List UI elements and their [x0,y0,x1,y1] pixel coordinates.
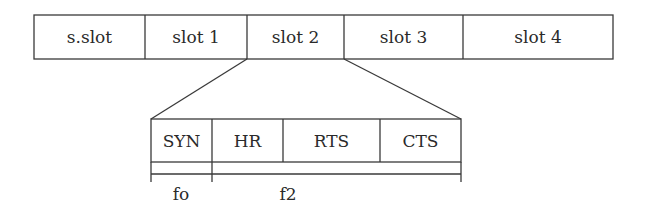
bracket-label-fo: fo [173,184,190,204]
bracket-label-f2: f2 [279,184,296,204]
slot-label-slot-4: slot 4 [514,27,561,47]
slot-label-s-slot: s.slot [67,27,113,47]
top-frame: s.slot slot 1 slot 2 slot 3 slot 4 [34,15,613,59]
expanded-slot: SYN HR RTS CTS [151,119,461,162]
field-label-hr: HR [234,131,263,151]
slot-label-slot-3: slot 3 [380,27,427,47]
slot-label-slot-1: slot 1 [172,27,219,47]
field-label-rts: RTS [314,131,350,151]
frame-diagram: s.slot slot 1 slot 2 slot 3 slot 4 SYN H… [0,0,648,223]
expansion-line-right [344,59,461,119]
field-label-syn: SYN [163,131,201,151]
slot-label-slot-2: slot 2 [272,27,319,47]
expansion-line-left [151,59,247,119]
expansion-lines [151,59,461,119]
field-brackets: fo f2 [151,162,461,204]
field-label-cts: CTS [403,131,439,151]
